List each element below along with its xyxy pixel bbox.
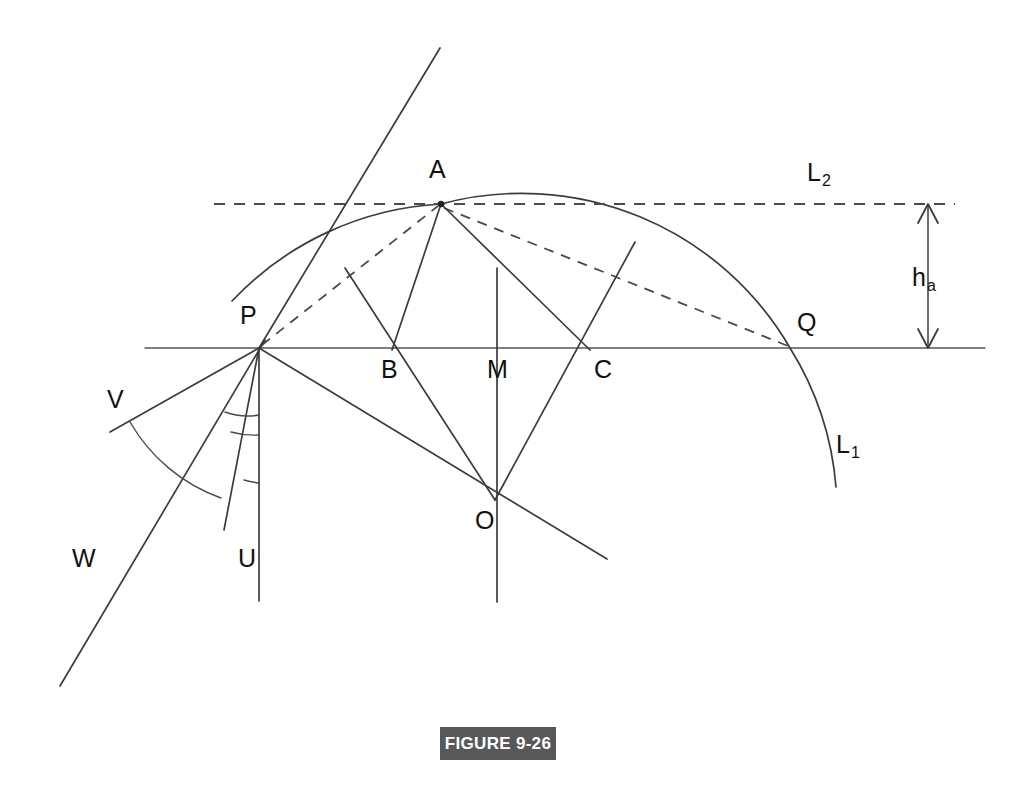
label-point-M: M: [487, 357, 508, 382]
angle-arc-inner-3: [225, 412, 259, 416]
label-L2-subscript: 2: [822, 172, 831, 189]
ray-V: [110, 348, 259, 432]
figure-container: A B M C O P Q U V W L1 L2 ha FIGURE 9-26: [0, 0, 1029, 797]
figure-caption-bar: FIGURE 9-26: [440, 727, 556, 760]
label-point-A: A: [429, 157, 446, 182]
label-ray-U: U: [238, 546, 256, 571]
line-P-O-extended: [259, 348, 607, 559]
label-point-Q: Q: [797, 310, 817, 335]
line-W: [60, 340, 265, 686]
label-point-B: B: [381, 357, 398, 382]
label-height-ha: ha: [912, 265, 935, 290]
label-line-W: W: [72, 546, 96, 571]
label-L1-base: L: [836, 430, 850, 458]
angle-arc-inner-1: [244, 480, 259, 483]
segment-A-B: [392, 204, 441, 350]
label-arc-L1: L1: [836, 432, 859, 457]
angle-arc-inner-2: [231, 432, 259, 435]
label-point-P: P: [240, 303, 257, 328]
geometric-diagram: [0, 0, 1029, 797]
angle-arc-outer: [130, 422, 221, 498]
label-point-C: C: [594, 357, 612, 382]
label-tangent-L2: L2: [807, 160, 830, 185]
label-L2-base: L: [807, 158, 821, 186]
figure-caption-text: FIGURE 9-26: [445, 734, 551, 754]
label-ha-subscript: a: [927, 277, 936, 294]
label-point-O: O: [475, 508, 495, 533]
ray-P-upper-tangent: [259, 48, 440, 348]
label-ha-base: h: [912, 263, 926, 291]
label-L1-subscript: 1: [851, 444, 860, 461]
segment-A-C: [441, 204, 590, 350]
label-ray-V: V: [107, 387, 124, 412]
ray-P-aux: [224, 348, 259, 530]
point-marker-A: [438, 201, 444, 207]
arc-L1: [232, 193, 836, 487]
radius-O-through-C: [495, 242, 635, 500]
radius-O-through-B: [345, 268, 495, 500]
